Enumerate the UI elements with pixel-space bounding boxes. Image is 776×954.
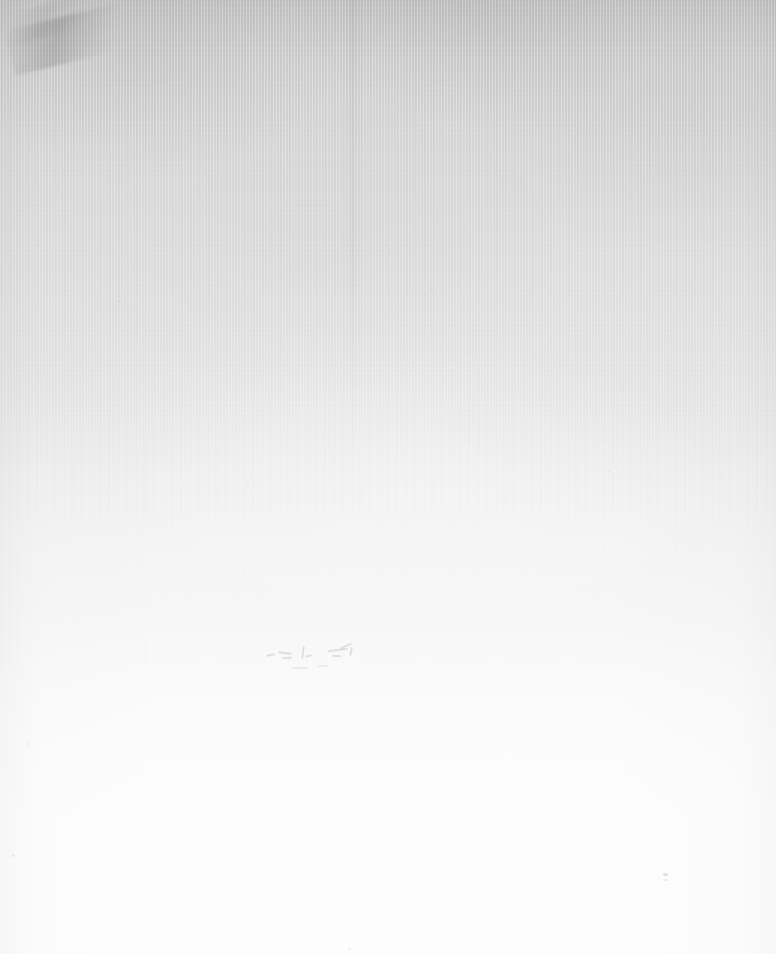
paper-surface <box>0 0 776 954</box>
scanned-page <box>0 0 776 954</box>
